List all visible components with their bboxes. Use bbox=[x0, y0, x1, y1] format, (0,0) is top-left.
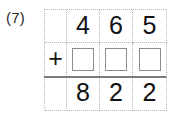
sum-horizontal-rule bbox=[44, 76, 166, 78]
worksheet-problem: (7) 4 6 5 + 8 bbox=[0, 0, 173, 116]
column-addition-grid: 4 6 5 + 8 2 2 bbox=[44, 9, 166, 110]
grid-cell-row1-operator bbox=[45, 10, 67, 43]
grid-cell-row3-hundreds: 8 bbox=[67, 77, 100, 111]
answer-box-ones[interactable] bbox=[139, 48, 161, 71]
grid-cell-row2-tens bbox=[100, 43, 133, 77]
grid-cell-row3-tens: 2 bbox=[100, 77, 133, 111]
digit-row3-ones: 2 bbox=[143, 80, 157, 107]
answer-box-hundreds[interactable] bbox=[72, 48, 94, 71]
digit-row3-hundreds: 8 bbox=[76, 80, 90, 107]
digit-row1-tens: 6 bbox=[109, 13, 123, 40]
grid-cell-row2-ones bbox=[133, 43, 167, 77]
grid-cell-row1-ones: 5 bbox=[133, 10, 167, 43]
problem-number-label: (7) bbox=[6, 10, 25, 25]
grid-cell-row3-operator bbox=[45, 77, 67, 111]
answer-box-tens[interactable] bbox=[105, 48, 127, 71]
grid-cell-row3-ones: 2 bbox=[133, 77, 167, 111]
plus-operator-icon: + bbox=[48, 46, 63, 73]
digit-row1-hundreds: 4 bbox=[76, 13, 90, 40]
digit-row3-tens: 2 bbox=[109, 80, 123, 107]
grid-cell-row1-hundreds: 4 bbox=[67, 10, 100, 43]
grid-cell-row2-hundreds bbox=[67, 43, 100, 77]
grid-cell-row1-tens: 6 bbox=[100, 10, 133, 43]
digit-row1-ones: 5 bbox=[143, 13, 157, 40]
grid-cell-row2-operator: + bbox=[45, 43, 67, 77]
